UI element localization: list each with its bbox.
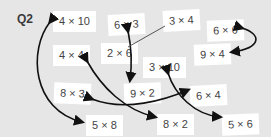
line-3x4-2x6 bbox=[128, 26, 165, 47]
arrow-6x3-9x2 bbox=[128, 31, 131, 80]
arrow-4x4-8x2 bbox=[87, 61, 155, 117]
arrow-6x6-9x4 bbox=[232, 28, 256, 52]
arrow-4x10-5x8 bbox=[37, 22, 82, 122]
arrow-8x3-6x4 bbox=[92, 90, 188, 105]
connector-arrows bbox=[0, 0, 271, 137]
